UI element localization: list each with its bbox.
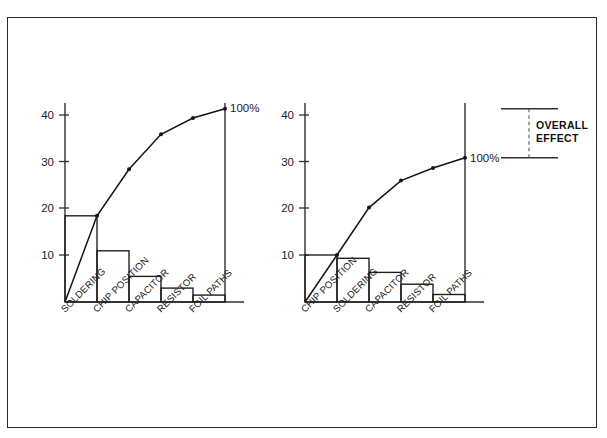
cat-label-4: FOIL PATHS [187,267,235,315]
figure-frame: 40 30 20 10 [7,17,597,428]
cumulative-line-before [65,107,227,302]
pareto-after-svg: 40 30 20 10 [248,18,598,418]
ytick-label-10: 10 [281,249,294,261]
cat-label-4: FOIL PATHS [427,267,475,315]
pareto-before-svg: 40 30 20 10 [8,18,288,418]
category-labels-after: CHIP POSITION SOLDERING CAPACITOR RESIST… [299,254,475,314]
legend-label-line2: EFFECT [536,132,579,144]
pareto-chart-after: 40 30 20 10 [248,18,598,418]
ytick-label-40: 40 [281,109,294,121]
ytick-label-20: 20 [41,202,54,214]
ytick-label-30: 30 [281,156,294,168]
legend-label-line1: OVERALL [536,119,589,131]
cat-label-0: CHIP POSITION [299,254,359,314]
category-labels-before: SOLDERING CHIP POSITION CAPACITOR RESIST… [59,254,235,314]
ytick-label-20: 20 [281,202,294,214]
pct-annotation-after: 100% [470,152,499,164]
ytick-label-10: 10 [41,249,54,261]
ytick-label-30: 30 [41,156,54,168]
overall-effect-legend: OVERALL EFFECT [501,109,589,158]
cat-label-1: CHIP POSITION [91,254,151,314]
pareto-chart-before: 40 30 20 10 [8,18,288,418]
ytick-label-40: 40 [41,109,54,121]
